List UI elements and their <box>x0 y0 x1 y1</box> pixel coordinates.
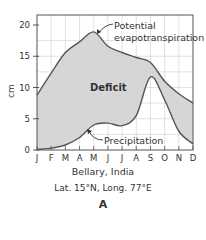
x-tick-label: J <box>35 153 39 163</box>
x-tick-label: A <box>133 153 139 163</box>
pet-label-line1: Potential <box>114 20 156 31</box>
panel-label: A <box>0 198 206 211</box>
x-tick-label: M <box>90 153 97 163</box>
y-tick-label: 0 <box>25 145 30 155</box>
pet-label-line2: evapotranspiration <box>114 32 204 43</box>
x-tick-label: D <box>190 153 197 163</box>
x-tick-label: J <box>120 153 124 163</box>
deficit-label: Deficit <box>90 82 127 93</box>
y-tick-label: 20 <box>19 20 30 30</box>
coords-caption: Lat. 15°N, Long. 77°E <box>0 183 206 193</box>
precip-label: Precipitation <box>104 135 163 146</box>
x-tick-label: N <box>176 153 182 163</box>
x-tick-label: F <box>49 153 54 163</box>
x-tick-label: M <box>62 153 69 163</box>
y-tick-label: 5 <box>25 114 30 124</box>
x-tick-label: A <box>77 153 83 163</box>
y-tick-label: 10 <box>19 83 30 93</box>
y-tick-label: 15 <box>19 51 30 61</box>
y-axis-title: cm <box>6 84 16 98</box>
location-caption: Bellary, India <box>0 166 206 177</box>
x-tick-label: J <box>106 153 110 163</box>
x-tick-label: S <box>148 153 153 163</box>
x-tick-label: O <box>161 153 168 163</box>
